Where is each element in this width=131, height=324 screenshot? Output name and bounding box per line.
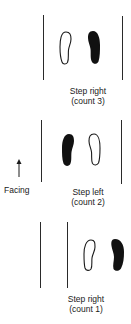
facing-arrow-up-icon — [15, 159, 23, 177]
boundary-line-left — [41, 120, 42, 182]
right-foot-filled-icon — [87, 30, 101, 65]
right-foot-filled-icon — [110, 238, 125, 272]
step-label-count: (count 1) — [56, 304, 116, 314]
step-label-count: (count 2) — [58, 197, 118, 207]
boundary-line-right — [122, 16, 123, 80]
right-foot-outline-icon — [88, 133, 101, 166]
boundary-line-right — [121, 120, 122, 184]
left-foot-outline-icon — [59, 31, 72, 65]
boundary-line-right — [67, 222, 68, 288]
left-foot-filled-icon — [61, 133, 75, 167]
step-label: Step left (count 2) — [58, 187, 118, 207]
facing-label: Facing — [4, 185, 30, 195]
step-label: Step right (count 3) — [58, 86, 118, 106]
boundary-line-left — [43, 15, 44, 80]
step-label-action: Step right — [56, 294, 116, 304]
step-label-action: Step right — [58, 86, 118, 96]
boundary-line-left — [40, 222, 41, 288]
step-label: Step right (count 1) — [56, 294, 116, 314]
step-label-action: Step left — [58, 187, 118, 197]
step-label-count: (count 3) — [58, 96, 118, 106]
left-foot-outline-icon — [83, 239, 96, 271]
